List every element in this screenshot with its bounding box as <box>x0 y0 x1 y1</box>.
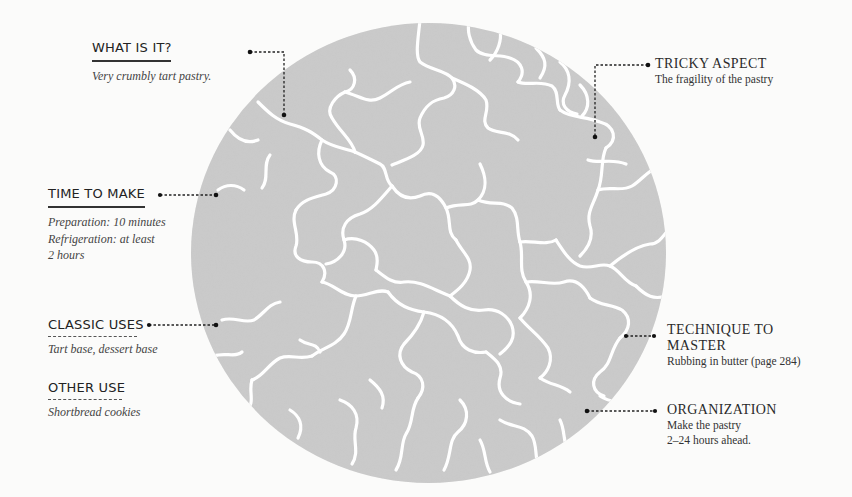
pastry-disc <box>191 23 666 483</box>
organization-line-2: 2–24 hours ahead. <box>667 433 777 448</box>
organization-heading: ORGANIZATION <box>667 402 777 418</box>
classic-uses-section: CLASSIC USES Tart base, dessert base <box>48 317 158 358</box>
technique-heading-line-1: TECHNIQUE TO <box>667 322 801 338</box>
organization-line-1: Make the pastry <box>667 418 777 433</box>
time-to-make-line-3: 2 hours <box>48 247 166 264</box>
other-use-text: Shortbread cookies <box>48 404 141 421</box>
tricky-aspect-text: The fragility of the pastry <box>655 72 773 87</box>
other-use-heading: OTHER USE <box>48 380 122 400</box>
technique-section: TECHNIQUE TO MASTER Rubbing in butter (p… <box>667 322 801 369</box>
tricky-aspect-section: TRICKY ASPECT The fragility of the pastr… <box>655 56 773 87</box>
other-use-section: OTHER USE Shortbread cookies <box>48 380 141 421</box>
technique-text: Rubbing in butter (page 284) <box>667 354 801 369</box>
tricky-aspect-heading: TRICKY ASPECT <box>655 56 773 72</box>
classic-uses-heading: CLASSIC USES <box>48 317 137 337</box>
what-is-it-heading: WHAT IS IT? <box>92 40 171 62</box>
what-is-it-section: WHAT IS IT? Very crumbly tart pastry. <box>92 40 211 85</box>
time-to-make-line-1: Preparation: 10 minutes <box>48 214 166 231</box>
time-to-make-heading: TIME TO MAKE <box>48 186 145 208</box>
organization-section: ORGANIZATION Make the pastry 2–24 hours … <box>667 402 777 448</box>
what-is-it-text: Very crumbly tart pastry. <box>92 68 211 85</box>
technique-heading-line-2: MASTER <box>667 338 801 354</box>
time-to-make-line-2: Refrigeration: at least <box>48 231 166 248</box>
classic-uses-text: Tart base, dessert base <box>48 341 158 358</box>
time-to-make-section: TIME TO MAKE Preparation: 10 minutes Ref… <box>48 186 166 264</box>
